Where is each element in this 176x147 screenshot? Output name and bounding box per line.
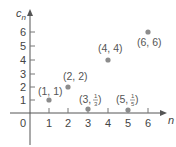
data-point xyxy=(105,57,110,62)
x-ticks xyxy=(49,108,148,113)
y-tick-label: 2 xyxy=(20,81,26,93)
data-point xyxy=(46,97,51,102)
scatter-chart: n cn 0 1 2 3 4 5 6 1 2 3 4 5 6 xyxy=(0,0,176,147)
x-tick-label: 6 xyxy=(145,117,151,129)
data-point xyxy=(65,84,70,89)
y-axis-label: cn xyxy=(16,7,27,22)
data-point xyxy=(85,106,90,111)
y-axis-arrow-icon xyxy=(27,9,33,16)
x-tick-label: 4 xyxy=(105,117,111,129)
y-tick-label: 6 xyxy=(20,26,26,38)
y-ticks xyxy=(30,32,35,100)
point-label: (6, 6) xyxy=(137,36,162,48)
svg-text:): ) xyxy=(98,93,102,105)
y-axis-label-sub: n xyxy=(22,13,27,22)
svg-text:(5,: (5, xyxy=(116,93,128,105)
x-tick-label: 1 xyxy=(46,117,52,129)
y-tick-label: 4 xyxy=(20,54,26,66)
x-tick-label: 2 xyxy=(65,117,71,129)
x-axis-label: n xyxy=(168,114,174,126)
x-tick-label: 5 xyxy=(125,117,131,129)
y-tick-label: 1 xyxy=(20,94,26,106)
point-label-fraction: (3, 1 3 ) xyxy=(79,93,102,107)
x-tick-label: 3 xyxy=(85,117,91,129)
data-point xyxy=(125,107,130,112)
point-label-fraction: (5, 1 5 ) xyxy=(116,93,139,107)
y-tick-label: 5 xyxy=(20,40,26,52)
y-tick-label: 3 xyxy=(20,68,26,80)
y-tick-labels: 1 2 3 4 5 6 xyxy=(20,26,26,106)
point-label: (1, 1) xyxy=(38,85,63,97)
point-label: (2, 2) xyxy=(63,70,88,82)
origin-label: 0 xyxy=(20,117,26,129)
x-tick-labels: 0 1 2 3 4 5 6 xyxy=(20,117,151,129)
point-label: (4, 4) xyxy=(98,42,123,54)
svg-text:(3,: (3, xyxy=(79,93,91,105)
data-point xyxy=(145,29,150,34)
x-axis-arrow-icon xyxy=(160,110,167,116)
point-labels: (1, 1) (2, 2) (3, 1 3 ) (4, 4) (5, 1 5 )… xyxy=(38,36,162,107)
svg-text:): ) xyxy=(135,93,139,105)
